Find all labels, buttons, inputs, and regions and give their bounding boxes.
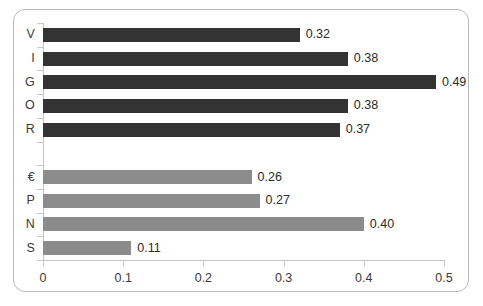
bar-value-label: 0.27 <box>266 194 290 207</box>
category-label-p: P <box>14 194 35 207</box>
bar-n <box>43 217 364 231</box>
value-tick-label: 0.5 <box>424 272 464 285</box>
bar-o <box>43 99 348 113</box>
category-label-r: R <box>14 123 35 136</box>
bar-value-label: 0.38 <box>354 52 378 65</box>
bar-g <box>43 75 436 89</box>
category-tick <box>37 70 43 71</box>
category-label-v: V <box>14 28 35 41</box>
category-label-o: O <box>14 99 35 112</box>
bar-i <box>43 52 348 66</box>
category-tick <box>37 165 43 166</box>
bar-value-label: 0.11 <box>137 242 160 255</box>
category-label-n: N <box>14 218 35 231</box>
bar-s <box>43 241 131 255</box>
category-tick <box>37 47 43 48</box>
value-tick-label: 0 <box>23 272 63 285</box>
value-tick <box>284 261 285 266</box>
category-tick <box>37 23 43 24</box>
value-tick-label: 0.3 <box>264 272 304 285</box>
chart-frame: VIGOR€PNS 0.320.380.490.380.370.260.270.… <box>13 9 469 292</box>
value-tick <box>444 261 445 266</box>
category-tick <box>37 118 43 119</box>
category-tick <box>37 236 43 237</box>
bar-value-label: 0.38 <box>354 99 378 112</box>
value-tick <box>43 261 44 266</box>
category-tick <box>37 189 43 190</box>
value-tick <box>364 261 365 266</box>
bar-r <box>43 123 340 137</box>
category-label-g: G <box>14 76 35 89</box>
bar-value-label: 0.32 <box>306 28 330 41</box>
category-label-i: I <box>14 52 35 65</box>
category-tick <box>37 142 43 143</box>
category-label-s: S <box>14 242 35 255</box>
bar-value-label: 0.49 <box>442 76 466 89</box>
value-axis-line <box>43 260 445 261</box>
bar-value-label: 0.37 <box>346 123 370 136</box>
bar-euro <box>43 170 252 184</box>
category-label-euro: € <box>14 171 35 184</box>
value-tick <box>203 261 204 266</box>
category-tick <box>37 94 43 95</box>
category-tick <box>37 213 43 214</box>
value-tick-label: 0.2 <box>183 272 223 285</box>
value-tick-label: 0.4 <box>344 272 384 285</box>
bar-v <box>43 28 300 42</box>
value-tick-label: 0.1 <box>103 272 143 285</box>
bar-value-label: 0.26 <box>258 171 282 184</box>
value-tick <box>123 261 124 266</box>
bar-value-label: 0.40 <box>370 218 394 231</box>
bar-p <box>43 194 260 208</box>
